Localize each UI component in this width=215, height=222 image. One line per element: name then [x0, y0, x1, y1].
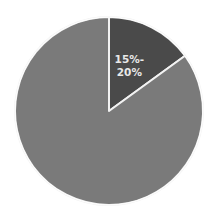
pie-labels: 15%-20%: [115, 53, 145, 78]
slice-label-line: 15%-: [115, 53, 145, 65]
slice-label-line: 20%: [117, 66, 143, 78]
pie-slices: [15, 17, 203, 205]
pie-chart: 15%-20%: [0, 0, 215, 222]
slice-label-0: 15%-20%: [115, 53, 145, 78]
